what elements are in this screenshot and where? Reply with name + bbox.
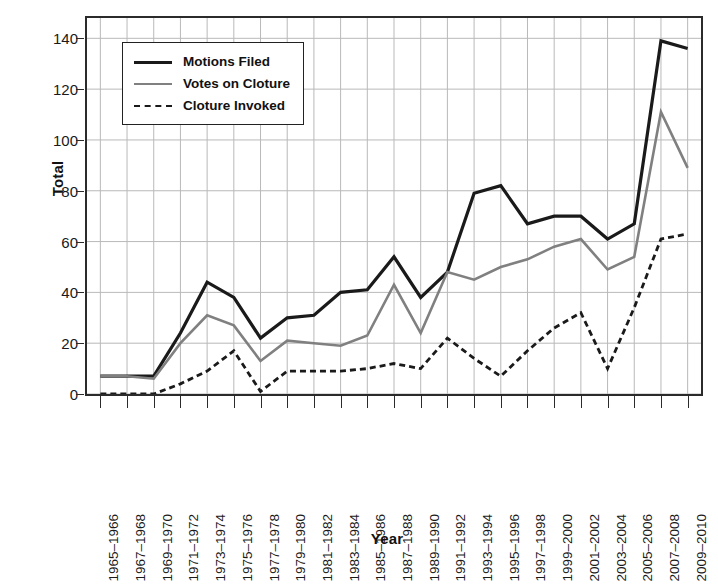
x-axis-tick-label: 1985–1986 bbox=[373, 514, 388, 585]
x-axis-tick-label: 1979–1980 bbox=[293, 514, 308, 585]
x-axis-tick-mark bbox=[608, 396, 609, 408]
y-axis-tick-label: 0 bbox=[36, 387, 78, 402]
x-axis-tick-label: 1999–2000 bbox=[560, 514, 575, 585]
x-axis-tick-mark bbox=[287, 396, 288, 408]
x-axis-tick-mark bbox=[154, 396, 155, 408]
y-axis-tick-label: 80 bbox=[36, 184, 78, 199]
x-axis-tick-mark bbox=[127, 396, 128, 408]
x-axis-tick-mark bbox=[447, 396, 448, 408]
x-axis-title: Year bbox=[97, 530, 677, 547]
x-axis-tick-label: 1967–1968 bbox=[133, 514, 148, 585]
legend-item-motions-filed: Motions Filed bbox=[132, 50, 294, 72]
x-axis-tick-label: 1997–1998 bbox=[533, 514, 548, 585]
y-axis-tick-label: 20 bbox=[36, 336, 78, 351]
x-axis-tick-label: 2007–2008 bbox=[667, 514, 682, 585]
x-axis-tick-mark bbox=[180, 396, 181, 408]
legend-item-label: Votes on Cloture bbox=[183, 76, 290, 91]
x-axis-tick-mark bbox=[474, 396, 475, 408]
legend-item-votes-on-cloture: Votes on Cloture bbox=[132, 72, 294, 94]
y-axis-tick-labels: 020406080100120140 bbox=[26, 0, 78, 400]
x-axis-tick-label: 1981–1982 bbox=[320, 514, 335, 585]
y-axis-tick-label: 100 bbox=[36, 133, 78, 148]
y-axis-tick-mark bbox=[76, 89, 84, 90]
y-axis-tick-mark bbox=[76, 292, 84, 293]
y-axis-tick-label: 60 bbox=[36, 235, 78, 250]
x-axis-tick-label: 1965–1966 bbox=[106, 514, 121, 585]
x-axis-tick-label: 1973–1974 bbox=[213, 514, 228, 585]
x-axis-tick-label: 1977–1978 bbox=[267, 514, 282, 585]
legend-item-label: Motions Filed bbox=[183, 54, 270, 69]
x-axis-tick-mark bbox=[688, 396, 689, 408]
x-axis-tick-mark bbox=[234, 396, 235, 408]
chart-legend: Motions Filed Votes on Cloture Cloture I… bbox=[122, 42, 304, 125]
y-axis-tick-label: 140 bbox=[36, 31, 78, 46]
x-axis-tick-mark bbox=[394, 396, 395, 408]
x-axis-tick-label: 1987–1988 bbox=[400, 514, 415, 585]
x-axis-tick-mark bbox=[554, 396, 555, 408]
x-axis-tick-mark bbox=[341, 396, 342, 408]
x-axis-tick-label: 1971–1972 bbox=[186, 514, 201, 585]
x-axis-tick-mark bbox=[634, 396, 635, 408]
x-axis-tick-mark bbox=[661, 396, 662, 408]
x-axis-tick-mark bbox=[581, 396, 582, 408]
y-axis-tick-mark bbox=[76, 140, 84, 141]
x-axis-tick-label: 1989–1990 bbox=[427, 514, 442, 585]
x-axis-tick-mark bbox=[527, 396, 528, 408]
x-axis-tick-label: 1995–1996 bbox=[507, 514, 522, 585]
votes-on-cloture-line-swatch-icon bbox=[132, 76, 174, 90]
y-axis-tick-label: 40 bbox=[36, 285, 78, 300]
x-axis-tick-label: 1975–1976 bbox=[240, 514, 255, 585]
x-axis-tick-label: 1991–1992 bbox=[453, 514, 468, 585]
x-axis-tick-label: 1983–1984 bbox=[347, 514, 362, 585]
y-axis-tick-mark bbox=[76, 191, 84, 192]
x-axis-tick-mark bbox=[501, 396, 502, 408]
x-axis-tick-mark bbox=[314, 396, 315, 408]
x-axis-tick-labels: 1965–19661967–19681969–19701971–19721973… bbox=[85, 402, 703, 522]
cloture-invoked-line-swatch-icon bbox=[132, 98, 174, 112]
x-axis-tick-label: 1993–1994 bbox=[480, 514, 495, 585]
x-axis-tick-label: 2005–2006 bbox=[640, 514, 655, 585]
y-axis-tick-label: 120 bbox=[36, 82, 78, 97]
y-axis-tick-mark bbox=[76, 343, 84, 344]
x-axis-tick-label: 2009–2010 bbox=[694, 514, 709, 585]
legend-item-label: Cloture Invoked bbox=[183, 98, 285, 113]
y-axis-tick-mark bbox=[76, 394, 84, 395]
x-axis-tick-mark bbox=[367, 396, 368, 408]
x-axis-tick-mark bbox=[100, 396, 101, 408]
x-axis-tick-label: 2001–2002 bbox=[587, 514, 602, 585]
x-axis-tick-mark bbox=[207, 396, 208, 408]
x-axis-tick-label: 1969–1970 bbox=[160, 514, 175, 585]
x-axis-tick-mark bbox=[421, 396, 422, 408]
x-axis-tick-mark bbox=[261, 396, 262, 408]
x-axis-tick-label: 2003–2004 bbox=[614, 514, 629, 585]
y-axis-tick-mark bbox=[76, 242, 84, 243]
y-axis-tick-mark bbox=[76, 38, 84, 39]
legend-item-cloture-invoked: Cloture Invoked bbox=[132, 94, 294, 116]
motions-filed-line-swatch-icon bbox=[132, 54, 174, 68]
